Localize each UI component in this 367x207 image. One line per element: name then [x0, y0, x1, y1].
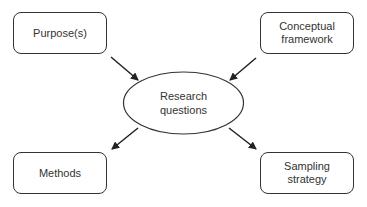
node-conceptual-framework: Conceptual framework	[260, 12, 354, 54]
node-purposes: Purpose(s)	[13, 12, 107, 54]
research-questions-label: Research questions	[133, 86, 234, 120]
node-sampling-strategy-label-line2: strategy	[287, 173, 326, 186]
arrow-questions-to-sampling	[229, 128, 256, 149]
arrow-purposes-to-questions	[111, 57, 138, 80]
node-conceptual-framework-label-line2: framework	[281, 33, 332, 46]
arrow-questions-to-methods	[112, 128, 138, 149]
node-purposes-label: Purpose(s)	[33, 27, 87, 40]
node-conceptual-framework-label-line1: Conceptual	[279, 20, 335, 33]
node-methods-label: Methods	[39, 167, 81, 180]
arrow-framework-to-questions	[230, 58, 256, 80]
node-sampling-strategy-label-line1: Sampling	[284, 160, 330, 173]
node-methods: Methods	[13, 152, 107, 194]
node-sampling-strategy: Sampling strategy	[260, 152, 354, 194]
research-questions-label-line2: questions	[160, 103, 207, 117]
research-questions-label-line1: Research	[160, 89, 207, 103]
